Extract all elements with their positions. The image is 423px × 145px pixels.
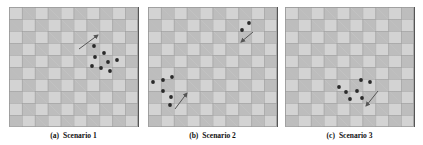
- agent-dot: [170, 75, 174, 79]
- scenario-2-caption: (b)Scenario 2: [148, 131, 277, 140]
- caption-tag: (a): [50, 131, 59, 140]
- agent-dot: [161, 78, 165, 82]
- caption-title: Scenario 2: [202, 131, 236, 140]
- caption-tag: (b): [189, 131, 198, 140]
- scenario-2-panel: [148, 7, 277, 127]
- agent-dot: [337, 85, 341, 89]
- agent-dot: [161, 89, 165, 93]
- agent-dot: [92, 44, 96, 48]
- agent-dot: [168, 103, 172, 107]
- agent-dot: [240, 28, 244, 32]
- agent-dot: [344, 90, 348, 94]
- direction-arrow-icon: [366, 91, 378, 106]
- agent-dot: [151, 80, 155, 84]
- scenario-1-caption: (a)Scenario 1: [9, 131, 138, 140]
- agents-overlay: [148, 7, 277, 127]
- caption-title: Scenario 3: [339, 131, 373, 140]
- panel-edge: [138, 7, 140, 127]
- agent-dot: [102, 51, 106, 55]
- agent-dot: [359, 78, 363, 82]
- agent-dot: [247, 21, 251, 25]
- agent-dot: [368, 80, 372, 84]
- agent-dot: [108, 69, 112, 73]
- direction-arrow-icon: [175, 93, 187, 109]
- agent-dot: [90, 64, 94, 68]
- agent-dot: [348, 97, 352, 101]
- caption-tag: (c): [327, 131, 335, 140]
- agent-dot: [106, 60, 110, 64]
- agents-overlay: [285, 7, 414, 127]
- scenario-1-panel: [9, 7, 138, 127]
- agent-dot: [93, 55, 97, 59]
- agent-dot: [169, 95, 173, 99]
- agents-overlay: [9, 7, 138, 127]
- agent-dot: [99, 66, 103, 70]
- caption-title: Scenario 1: [63, 131, 97, 140]
- agent-dot: [115, 58, 119, 62]
- agent-dot: [360, 96, 364, 100]
- direction-arrow-icon: [241, 32, 253, 42]
- scenario-3-caption: (c)Scenario 3: [285, 131, 414, 140]
- scenario-3-panel: [285, 7, 414, 127]
- panel-edge: [414, 7, 416, 127]
- panel-edge: [277, 7, 279, 127]
- agent-dot: [355, 89, 359, 93]
